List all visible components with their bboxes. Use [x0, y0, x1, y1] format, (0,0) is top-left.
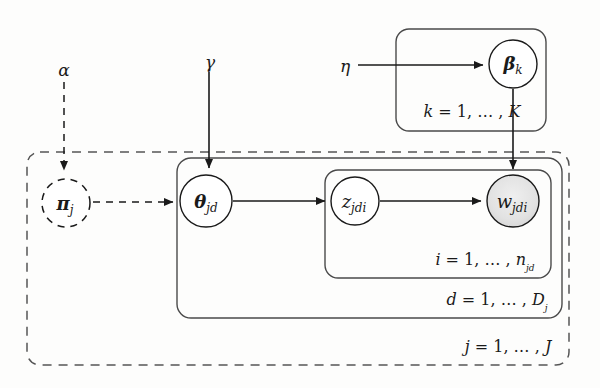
plate-k-label: k = 1, … , K — [424, 104, 521, 120]
plate-j-dots: … , — [514, 337, 540, 356]
plate-k-index: k — [424, 102, 434, 121]
plate-j-limit: J — [545, 337, 551, 356]
figure-canvas: α γ η βk πj θjd zjdi wjdi k = 1, … , K i… — [0, 0, 600, 388]
plate-k-limit: K — [508, 102, 520, 121]
node-beta-label: βk — [503, 55, 522, 73]
node-z-subscript: jdi — [351, 201, 366, 215]
node-w-subscript: jdi — [512, 201, 527, 215]
node-pi-symbol: π — [57, 193, 70, 214]
node-pi-label: πj — [57, 195, 74, 213]
plate-i-dots: … , — [484, 250, 510, 269]
plate-i-label: i = 1, … , njd — [435, 252, 534, 268]
plate-d-eq: = 1, — [462, 290, 496, 309]
plate-d-limit: D — [532, 290, 545, 309]
hyperparameter-alpha-label: α — [58, 62, 69, 79]
hyperparameter-eta-label: η — [340, 58, 350, 75]
plate-i-limit-subscript: jd — [526, 263, 535, 273]
node-beta-subscript: k — [515, 63, 522, 77]
hyperparameter-gamma-label: γ — [205, 54, 215, 71]
plate-d-limit-subscript: j — [545, 303, 548, 313]
node-theta-label: θjd — [194, 193, 217, 211]
node-w-symbol: w — [497, 191, 512, 212]
plate-d-dots: … , — [501, 290, 527, 309]
node-w-label: wjdi — [497, 193, 528, 211]
node-z-label: zjdi — [342, 193, 367, 211]
plate-i-index: i — [435, 250, 440, 269]
node-theta-symbol: θ — [194, 191, 206, 212]
node-pi-subscript: j — [70, 203, 74, 217]
plate-i-eq: = 1, — [446, 250, 480, 269]
plate-k-eq: = 1, — [438, 102, 472, 121]
plate-j-label: j = 1, … , J — [465, 339, 552, 355]
node-beta-symbol: β — [503, 53, 515, 74]
plate-d-label: d = 1, … , Dj — [446, 292, 547, 308]
plate-k-dots: … , — [477, 102, 503, 121]
plate-j-eq: = 1, — [475, 337, 509, 356]
node-theta-subscript: jd — [206, 201, 217, 215]
plate-d-index: d — [446, 290, 456, 309]
plate-i-limit: n — [516, 250, 526, 269]
plate-j-index: j — [465, 337, 470, 356]
